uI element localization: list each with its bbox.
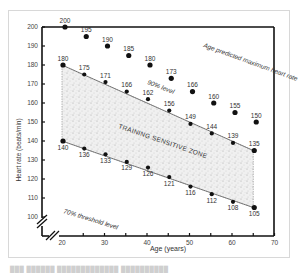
y-tick-label: 190 — [27, 42, 38, 49]
data-point-label: 190 — [102, 36, 113, 43]
heart-rate-chart: 1001101201301401501601701801902002030405… — [0, 0, 303, 275]
data-point — [210, 131, 214, 135]
data-point — [84, 34, 89, 39]
data-point-label: 171 — [100, 72, 111, 79]
data-point — [60, 62, 65, 67]
x-tick-label: 30 — [101, 239, 109, 246]
y-tick-label: 140 — [27, 137, 38, 144]
y-tick-label: 120 — [27, 175, 38, 182]
data-point-label: 173 — [166, 68, 177, 75]
data-point — [103, 152, 107, 156]
data-point — [231, 200, 235, 204]
y-tick-label: 170 — [27, 80, 38, 87]
data-point-label: 150 — [251, 112, 262, 119]
data-point-label: 116 — [185, 189, 196, 196]
x-tick-label: 20 — [58, 239, 66, 246]
data-point-label: 149 — [185, 113, 196, 120]
data-point-label: 155 — [230, 102, 241, 109]
data-point-label: 166 — [121, 81, 132, 88]
data-point — [167, 175, 171, 179]
data-point — [82, 72, 86, 76]
x-tick-label: 70 — [271, 239, 279, 246]
data-point — [188, 185, 192, 189]
data-point-label: 200 — [60, 17, 71, 24]
y-tick-label: 180 — [27, 61, 38, 68]
seventy-percent-label: 70% threshold level — [63, 207, 120, 230]
data-point — [146, 97, 150, 101]
data-point — [82, 147, 86, 151]
y-tick-label: 130 — [27, 156, 38, 163]
data-point — [125, 90, 129, 94]
data-point-label: 135 — [249, 140, 260, 147]
data-point-label: 121 — [164, 180, 175, 187]
data-point-label: 180 — [145, 55, 156, 62]
data-point — [167, 109, 171, 113]
data-point — [188, 122, 192, 126]
figure-caption: ███ ██████ █████████████ ██████████ — [10, 266, 169, 272]
data-point-label: 160 — [208, 93, 219, 100]
data-point — [252, 148, 257, 153]
data-point-label: 185 — [123, 45, 134, 52]
x-axis-label: Age (years) — [150, 245, 186, 253]
data-point-label: 112 — [207, 197, 218, 204]
y-tick-label: 160 — [27, 99, 38, 106]
data-point-label: 156 — [164, 100, 175, 107]
data-point — [232, 110, 237, 115]
data-point — [125, 160, 129, 164]
max-heart-rate-label: Age predicted maximum heart rate — [201, 41, 299, 83]
x-tick-label: 50 — [186, 239, 194, 246]
data-point-label: 126 — [143, 170, 154, 177]
data-point-label: 136 — [79, 151, 90, 158]
data-point — [146, 166, 150, 170]
y-tick-label: 200 — [27, 23, 38, 30]
data-point — [211, 100, 216, 105]
data-point — [105, 43, 110, 48]
data-point — [210, 192, 214, 196]
data-point-label: 144 — [206, 123, 217, 130]
data-point — [147, 62, 152, 67]
data-point-label: 108 — [228, 204, 239, 211]
data-point-label: 180 — [58, 55, 69, 62]
data-point — [169, 76, 174, 81]
data-point — [103, 80, 107, 84]
data-point — [231, 141, 235, 145]
data-point-label: 195 — [81, 26, 92, 33]
x-tick-label: 60 — [228, 239, 236, 246]
data-point-label: 139 — [228, 132, 239, 139]
data-point-label: 133 — [100, 157, 111, 164]
y-axis-label: Heart rate (beats/min) — [15, 118, 23, 181]
y-tick-label: 100 — [27, 213, 38, 220]
data-point — [62, 24, 67, 29]
y-tick-label: 110 — [28, 194, 39, 201]
data-point-label: 175 — [79, 64, 90, 71]
data-point — [190, 89, 195, 94]
data-point-label: 140 — [58, 144, 69, 151]
data-point-label: 162 — [143, 89, 154, 96]
data-point-label: 129 — [121, 164, 132, 171]
y-tick-label: 150 — [27, 118, 38, 125]
data-point — [126, 53, 131, 58]
data-point — [254, 119, 259, 124]
data-point-label: 105 — [249, 210, 260, 217]
data-point-label: 166 — [187, 81, 198, 88]
